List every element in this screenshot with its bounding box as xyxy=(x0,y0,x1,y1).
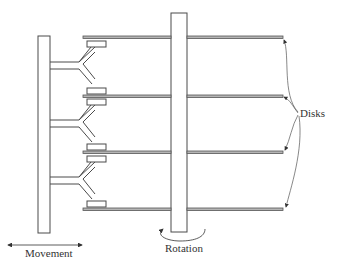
leader-4 xyxy=(286,116,300,207)
disks-label: Disks xyxy=(300,107,325,119)
arm-3 xyxy=(50,162,95,199)
platter-1 xyxy=(83,36,171,39)
spindle xyxy=(171,13,187,232)
head-5 xyxy=(87,156,106,162)
platter-3 xyxy=(83,151,171,154)
leader-1 xyxy=(284,40,298,112)
platter-4-right xyxy=(187,208,283,211)
disks-leaders xyxy=(284,40,300,207)
actuator-arms xyxy=(50,47,95,199)
head-1 xyxy=(87,41,106,47)
arm-2 xyxy=(50,105,95,142)
disk-drive-diagram: Disks Movement Rotation xyxy=(0,0,354,264)
head-2 xyxy=(87,88,106,94)
rotation-label: Rotation xyxy=(165,242,203,254)
platter-3-right xyxy=(187,151,283,154)
platter-2-right xyxy=(187,95,283,98)
platter-2 xyxy=(83,95,171,98)
platter-4 xyxy=(83,208,171,211)
platter-1-right xyxy=(187,36,283,39)
head-4 xyxy=(87,144,106,150)
head-6 xyxy=(87,201,106,207)
leader-3 xyxy=(285,115,298,150)
movement-label: Movement xyxy=(25,247,73,259)
head-3 xyxy=(87,99,106,105)
actuator-column xyxy=(38,36,50,233)
heads xyxy=(87,41,106,207)
arm-1 xyxy=(50,47,95,84)
